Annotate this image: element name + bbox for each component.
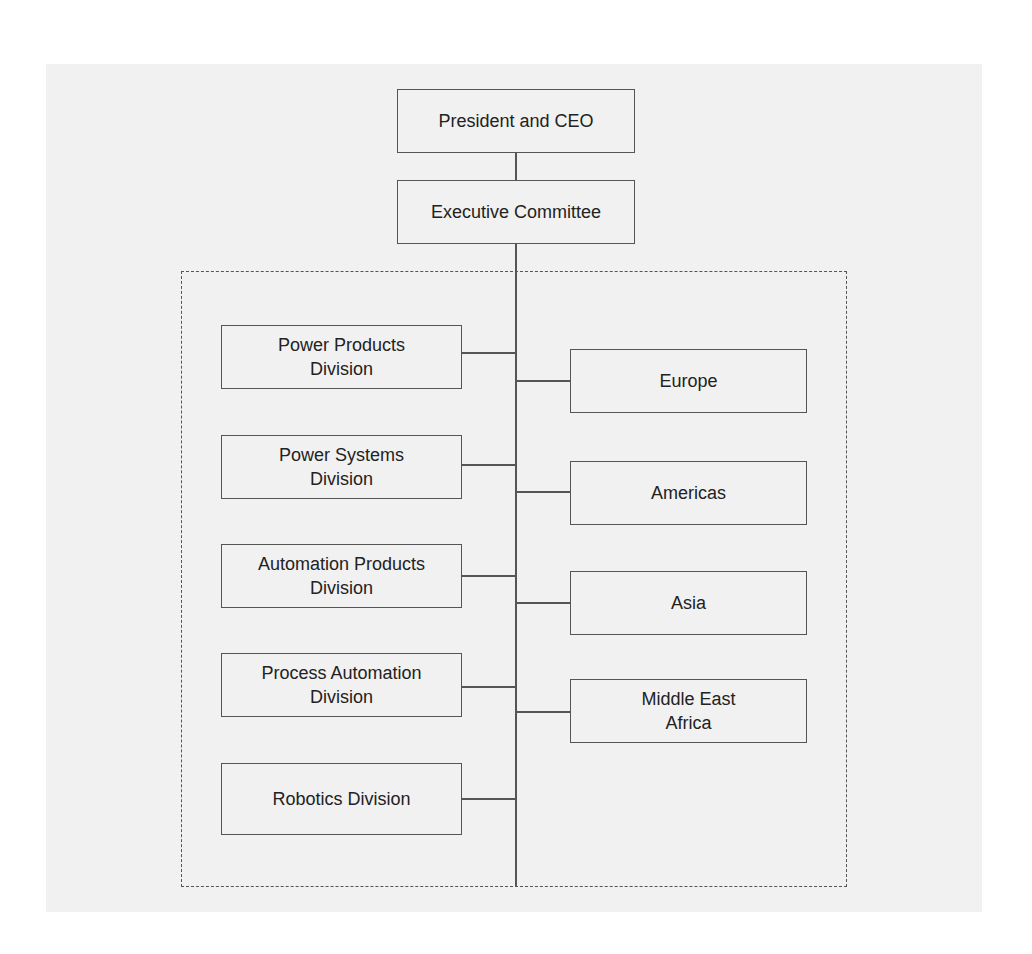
region-box-europe: Europe xyxy=(570,349,807,413)
division-box-power-products: Power Products Division xyxy=(221,325,462,389)
region-box-middle-east-africa: Middle East Africa xyxy=(570,679,807,743)
connector-division-2 xyxy=(461,464,516,466)
region-box-asia: Asia xyxy=(570,571,807,635)
division-box-power-systems: Power Systems Division xyxy=(221,435,462,499)
connector-region-1 xyxy=(516,380,570,382)
connector-spine xyxy=(515,243,517,887)
connector-division-5 xyxy=(461,798,516,800)
division-box-process-automation: Process Automation Division xyxy=(221,653,462,717)
connector-region-4 xyxy=(516,711,570,713)
connector-division-1 xyxy=(461,352,516,354)
connector-region-2 xyxy=(516,491,570,493)
division-box-robotics: Robotics Division xyxy=(221,763,462,835)
executive-committee-box: Executive Committee xyxy=(397,180,635,244)
connector-region-3 xyxy=(516,602,570,604)
division-box-automation-products: Automation Products Division xyxy=(221,544,462,608)
connector-division-3 xyxy=(461,575,516,577)
president-ceo-box: President and CEO xyxy=(397,89,635,153)
region-box-americas: Americas xyxy=(570,461,807,525)
connector-ceo-exec xyxy=(515,152,517,180)
connector-division-4 xyxy=(461,686,516,688)
